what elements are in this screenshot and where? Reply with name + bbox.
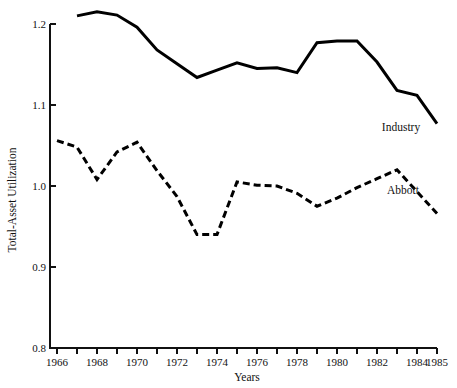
x-axis-tick-labels: 1966196819701972197419761978198019821984… <box>46 356 449 368</box>
axes <box>50 24 437 354</box>
x-axis-tick-label: 1970 <box>126 356 149 368</box>
data-series-group <box>57 12 437 235</box>
x-axis-tick-label: 1978 <box>286 356 309 368</box>
series-label-industry: Industry <box>382 121 421 134</box>
series-annotations: IndustryAbbott <box>382 121 421 196</box>
series-line-industry <box>77 12 437 124</box>
x-axis-title: Years <box>234 371 260 383</box>
y-axis-tick-label: 0.8 <box>32 342 46 354</box>
chart-container: 0.80.91.01.11.2 196619681970197219741976… <box>0 0 457 388</box>
x-axis-tick-label: 1976 <box>246 356 269 368</box>
y-axis-title: Total-Asset Utilization <box>6 147 18 252</box>
y-axis-ticks <box>50 24 56 348</box>
series-line-abbott <box>57 141 437 235</box>
x-axis-ticks <box>57 348 437 354</box>
y-axis-tick-label: 1.0 <box>32 180 46 192</box>
x-axis-tick-label: 1980 <box>326 356 349 368</box>
y-axis-tick-label: 0.9 <box>32 261 46 273</box>
line-chart: 0.80.91.01.11.2 196619681970197219741976… <box>0 0 457 388</box>
y-axis-tick-label: 1.2 <box>32 18 46 30</box>
x-axis-tick-label: 1982 <box>366 356 388 368</box>
axis-frame <box>50 24 437 348</box>
x-axis-tick-label: 1968 <box>86 356 109 368</box>
y-axis-tick-label: 1.1 <box>32 99 46 111</box>
x-axis-tick-label: 1985 <box>426 356 449 368</box>
x-axis-tick-label: 1966 <box>46 356 69 368</box>
x-axis-tick-label: 1974 <box>206 356 229 368</box>
y-axis-tick-labels: 0.80.91.01.11.2 <box>32 18 46 354</box>
x-axis-tick-label: 1972 <box>166 356 188 368</box>
series-label-abbott: Abbott <box>387 184 420 196</box>
